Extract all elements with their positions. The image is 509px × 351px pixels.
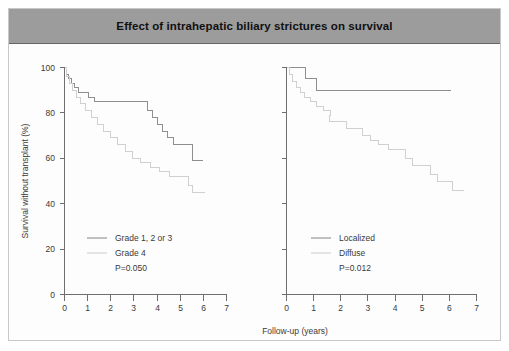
x-tick-label-1: 1 bbox=[85, 303, 90, 313]
right-x-tick-label-4: 4 bbox=[393, 303, 398, 313]
chart-svg: 100 80 60 40 20 0 Survival without trans… bbox=[9, 44, 501, 341]
figure-container: Effect of intrahepatic biliary stricture… bbox=[8, 8, 501, 341]
right-x-ticks bbox=[287, 295, 477, 301]
right-curve-1 bbox=[287, 68, 465, 191]
left-legend: Grade 1, 2 or 3 Grade 4 P=0.050 bbox=[87, 233, 172, 273]
figure-title: Effect of intrahepatic biliary stricture… bbox=[116, 20, 392, 32]
right-p-value: P=0.012 bbox=[339, 263, 371, 273]
figure-title-bar: Effect of intrahepatic biliary stricture… bbox=[9, 9, 500, 44]
right-x-tick-label-0: 0 bbox=[284, 303, 289, 313]
left-legend-label-1: Grade 4 bbox=[115, 248, 146, 258]
right-panel: 0 1 2 3 4 5 6 7 Localized Diffuse bbox=[282, 68, 480, 314]
y-tick-label-0: 0 bbox=[50, 290, 55, 300]
right-legend-label-1: Diffuse bbox=[339, 248, 366, 258]
right-x-tick-labels: 0 1 2 3 4 5 6 7 bbox=[284, 303, 479, 313]
left-x-ticks bbox=[65, 295, 227, 301]
y-tick-label-100: 100 bbox=[41, 63, 55, 73]
left-legend-label-0: Grade 1, 2 or 3 bbox=[115, 233, 172, 243]
right-x-tick-label-3: 3 bbox=[366, 303, 371, 313]
right-curve-0 bbox=[287, 68, 451, 91]
x-tick-label-3: 3 bbox=[131, 303, 136, 313]
y-tick-label-20: 20 bbox=[46, 244, 56, 254]
x-axis-title: Follow-up (years) bbox=[262, 326, 328, 336]
left-curve-0 bbox=[65, 68, 204, 161]
x-tick-label-5: 5 bbox=[178, 303, 183, 313]
y-axis-title: Survival without transplant (%) bbox=[20, 123, 30, 238]
right-legend-label-0: Localized bbox=[339, 233, 375, 243]
left-panel-curves bbox=[65, 68, 205, 193]
x-tick-label-4: 4 bbox=[155, 303, 160, 313]
right-legend: Localized Diffuse P=0.012 bbox=[311, 233, 375, 273]
left-x-tick-labels: 0 1 2 3 4 5 6 7 bbox=[62, 303, 229, 313]
right-x-tick-label-5: 5 bbox=[420, 303, 425, 313]
left-y-ticks bbox=[60, 68, 65, 295]
right-x-tick-label-2: 2 bbox=[338, 303, 343, 313]
y-tick-label-80: 80 bbox=[46, 108, 56, 118]
right-y-ticks bbox=[282, 68, 287, 295]
left-y-tick-labels: 100 80 60 40 20 0 bbox=[41, 63, 55, 300]
right-x-tick-label-6: 6 bbox=[447, 303, 452, 313]
x-tick-label-2: 2 bbox=[108, 303, 113, 313]
right-x-tick-label-7: 7 bbox=[474, 303, 479, 313]
left-panel: 100 80 60 40 20 0 Survival without trans… bbox=[20, 63, 229, 314]
x-tick-label-7: 7 bbox=[224, 303, 229, 313]
left-p-value: P=0.050 bbox=[115, 263, 147, 273]
right-panel-curves bbox=[287, 68, 465, 191]
right-x-tick-label-1: 1 bbox=[311, 303, 316, 313]
y-tick-label-40: 40 bbox=[46, 199, 56, 209]
left-curve-1 bbox=[65, 68, 205, 193]
plot-canvas: 100 80 60 40 20 0 Survival without trans… bbox=[9, 44, 500, 341]
x-tick-label-0: 0 bbox=[62, 303, 67, 313]
y-tick-label-60: 60 bbox=[46, 153, 56, 163]
x-tick-label-6: 6 bbox=[201, 303, 206, 313]
